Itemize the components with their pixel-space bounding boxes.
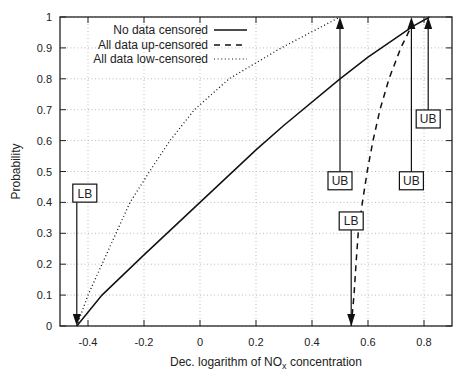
annotation-label: LB: [77, 187, 92, 201]
y-tick-label: 0.8: [37, 73, 52, 85]
y-tick-label: 0.9: [37, 42, 52, 54]
censoring-probability-chart: LBUBLBUBUB -0.4-0.200.20.40.60.800.10.20…: [0, 0, 463, 380]
y-tick-label: 0.1: [37, 289, 52, 301]
annotation-label: UB: [420, 112, 437, 126]
y-tick-label: 0.6: [37, 135, 52, 147]
x-tick-label: 0.4: [304, 336, 319, 348]
legend: No data censoredAll data up-censoredAll …: [93, 23, 247, 66]
y-tick-label: 0.2: [37, 258, 52, 270]
annotation-label: LB: [344, 214, 359, 228]
annotation-label: UB: [403, 174, 420, 188]
x-tick-label: -0.4: [79, 336, 98, 348]
y-tick-label: 1: [46, 11, 52, 23]
arrow-down-icon: [347, 314, 355, 326]
annotation-lb: LB: [339, 212, 363, 326]
x-tick-label: 0.6: [360, 336, 375, 348]
arrow-up-icon: [407, 17, 415, 29]
y-tick-label: 0: [46, 320, 52, 332]
y-tick-label: 0.4: [37, 196, 52, 208]
x-axis-label-suffix: concentration: [287, 355, 362, 369]
x-axis-label-main: Dec. logarithm of NO: [170, 355, 282, 369]
x-axis-label: Dec. logarithm of NOx concentration: [170, 355, 362, 371]
annotation-label: UB: [332, 174, 349, 188]
x-tick-label: 0: [197, 336, 203, 348]
annotation-ub: UB: [416, 17, 440, 128]
y-axis-label: Probability: [9, 143, 23, 199]
annotation-ub: UB: [328, 17, 352, 190]
legend-label: All data low-censored: [93, 52, 208, 66]
y-tick-label: 0.7: [37, 104, 52, 116]
x-tick-label: 0.2: [248, 336, 263, 348]
y-tick-label: 0.3: [37, 227, 52, 239]
x-tick-label: 0.8: [416, 336, 431, 348]
x-tick-label: -0.2: [135, 336, 154, 348]
legend-label: No data censored: [113, 23, 208, 37]
arrow-down-icon: [73, 314, 81, 326]
legend-label: All data up-censored: [98, 38, 208, 52]
y-tick-label: 0.5: [37, 166, 52, 178]
